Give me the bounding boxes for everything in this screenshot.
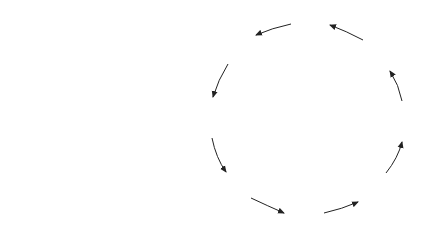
moon-phases-diagram [0, 0, 438, 246]
orbit-arrows [212, 24, 402, 213]
orbit-arrow-2-3 [251, 198, 284, 213]
diagram-canvas [0, 0, 438, 246]
orbit-arrow-1-2 [212, 138, 226, 172]
orbit-arrow-8-1 [213, 64, 228, 97]
orbit-arrow-4-5 [386, 142, 402, 173]
orbit-arrow-6-7 [330, 25, 363, 40]
orbit-arrow-7-8 [256, 24, 291, 35]
orbit-arrow-5-6 [390, 71, 402, 101]
orbit-arrow-3-4 [324, 202, 358, 213]
